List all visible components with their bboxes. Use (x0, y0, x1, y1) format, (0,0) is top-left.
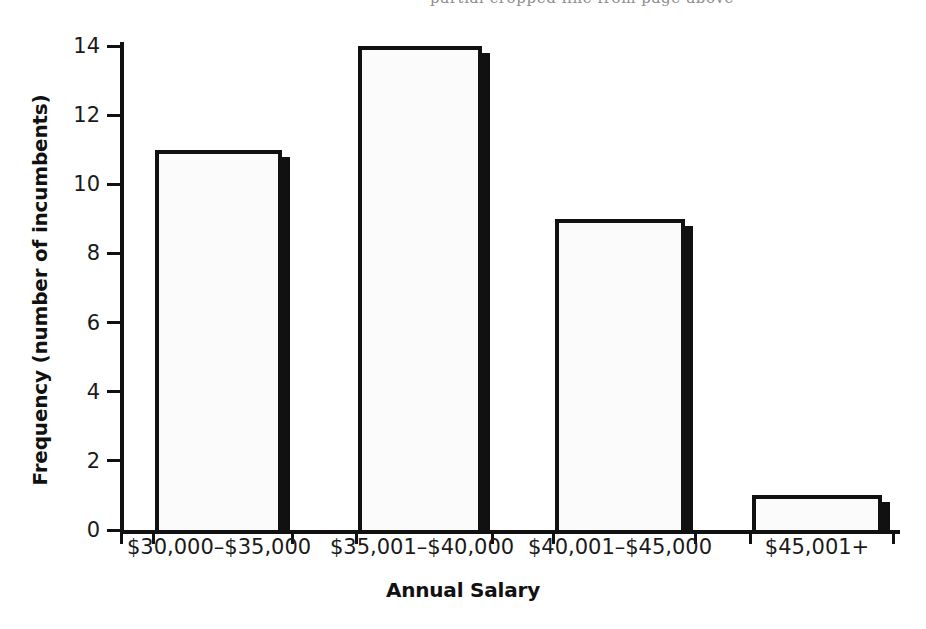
cropped-text-glyphs: partial cropped line from page above (430, 0, 734, 7)
x-axis-tick-label: $35,001–$40,000 (330, 536, 510, 559)
y-axis-tick (107, 390, 120, 393)
y-axis-tick (107, 45, 120, 48)
y-axis-tick (107, 321, 120, 324)
y-axis-tick-label: 6 (0, 312, 100, 333)
cropped-text-bleed: partial cropped line from page above (430, 0, 900, 8)
bar[interactable] (155, 150, 282, 530)
x-axis-tick-label: $40,001–$45,000 (527, 536, 713, 559)
y-axis-tick-label: 2 (0, 450, 100, 471)
y-axis-tick-label: 0 (0, 520, 100, 541)
bar[interactable] (555, 219, 685, 530)
y-axis-line (120, 42, 124, 534)
y-axis-tick (107, 114, 120, 117)
x-axis-tick-label: $45,001+ (724, 536, 910, 559)
y-axis-tick-label: 8 (0, 243, 100, 264)
y-axis-tick (107, 252, 120, 255)
bar[interactable] (358, 46, 482, 530)
x-axis-line (120, 530, 900, 534)
y-axis-tick-label: 14 (0, 36, 100, 57)
x-axis-title: Annual Salary (0, 578, 926, 602)
y-axis-tick (107, 529, 120, 532)
x-axis-tick-label: $30,000–$35,000 (127, 536, 310, 559)
bar[interactable] (752, 495, 882, 530)
y-axis-tick-label: 10 (0, 174, 100, 195)
y-axis-tick-label: 12 (0, 105, 100, 126)
y-axis-tick-label: 4 (0, 381, 100, 402)
plot-area (120, 46, 900, 530)
x-axis-tick (120, 530, 123, 544)
y-axis-tick (107, 183, 120, 186)
bar-chart: partial cropped line from page above Fre… (0, 0, 926, 629)
y-axis-tick (107, 459, 120, 462)
